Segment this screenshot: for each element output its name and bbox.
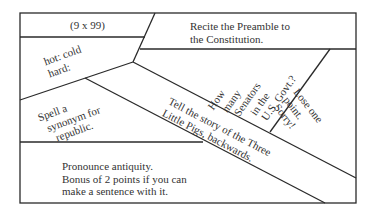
space-antiquity[interactable]: Pronounce antiquity. Bonus of 2 points i… — [62, 160, 187, 198]
space-text: the Constitution. — [190, 33, 290, 46]
space-multiply[interactable]: (9 x 99) — [70, 19, 105, 32]
space-text: Bonus of 2 points if you can — [62, 173, 187, 186]
space-text: Pronounce antiquity. — [62, 160, 187, 173]
space-preamble[interactable]: Recite the Preamble to the Constitution. — [190, 20, 290, 45]
space-text: (9 x 99) — [70, 19, 105, 31]
space-text: Recite the Preamble to — [190, 20, 290, 33]
space-text: make a sentence with it. — [62, 185, 187, 198]
